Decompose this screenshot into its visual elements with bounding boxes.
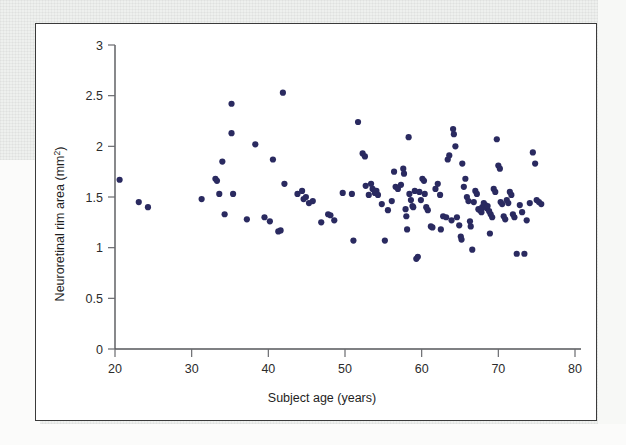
x-tick-label-80: 80 [568, 362, 582, 376]
data-point [408, 197, 414, 203]
data-point [489, 214, 495, 220]
data-point [252, 141, 258, 147]
data-point [492, 189, 498, 195]
data-point [280, 90, 286, 96]
x-axis: 20304050607080 [108, 349, 582, 376]
data-point [446, 152, 452, 158]
data-point [521, 251, 527, 257]
data-point [382, 237, 388, 243]
data-point [469, 247, 475, 253]
data-point [462, 176, 468, 182]
x-tick-label-40: 40 [261, 362, 275, 376]
data-point [222, 211, 228, 217]
figure-frame: 00.511.522.53 20304050607080 Subject age… [35, 23, 597, 421]
scatter-plot: 00.511.522.53 20304050607080 Subject age… [36, 24, 596, 420]
data-point [418, 197, 424, 203]
data-point [454, 214, 460, 220]
data-point [505, 200, 511, 206]
data-point [385, 207, 391, 213]
data-point [270, 156, 276, 162]
page-background-right-panel [598, 0, 626, 445]
data-point [524, 217, 530, 223]
data-point [368, 181, 374, 187]
data-point [281, 181, 287, 187]
data-point [389, 198, 395, 204]
data-point [355, 119, 361, 125]
data-point [494, 136, 500, 142]
data-point [401, 171, 407, 177]
data-point [267, 218, 273, 224]
data-point [425, 207, 431, 213]
data-point [340, 190, 346, 196]
data-point [429, 224, 435, 230]
data-point [461, 184, 467, 190]
data-point [443, 214, 449, 220]
data-point [451, 131, 457, 137]
x-tick-label-30: 30 [185, 362, 199, 376]
data-point [435, 181, 441, 187]
data-point [511, 214, 517, 220]
data-point [244, 216, 250, 222]
data-point [331, 217, 337, 223]
data-point [310, 198, 316, 204]
data-point [458, 236, 464, 242]
data-point [456, 222, 462, 228]
data-points [117, 90, 545, 262]
data-point [532, 160, 538, 166]
data-point [415, 254, 421, 260]
data-point [465, 198, 471, 204]
data-point [406, 191, 412, 197]
data-point [398, 182, 404, 188]
data-point [422, 191, 428, 197]
data-point [527, 200, 533, 206]
data-point [303, 194, 309, 200]
data-point [452, 143, 458, 149]
data-point [438, 226, 444, 232]
data-point [459, 160, 465, 166]
data-point [402, 206, 408, 212]
svg-text:Neuroretinal rim area (mm2): Neuroretinal rim area (mm2) [52, 147, 67, 302]
data-point [474, 191, 480, 197]
data-point [366, 192, 372, 198]
data-point [327, 212, 333, 218]
y-axis: 00.511.522.53 [86, 39, 115, 357]
x-tick-label-20: 20 [108, 362, 122, 376]
page-root: 00.511.522.53 20304050607080 Subject age… [0, 0, 626, 445]
data-point [136, 199, 142, 205]
y-tick-label-1: 1 [96, 241, 103, 255]
x-tick-label-60: 60 [415, 362, 429, 376]
page-background-left-panel [0, 160, 40, 445]
data-point [350, 237, 356, 243]
data-point [421, 178, 427, 184]
y-axis-title-main: Neuroretinal rim area (mm [53, 156, 67, 302]
data-point [502, 216, 508, 222]
data-point [349, 191, 355, 197]
data-point [530, 149, 536, 155]
data-point [519, 209, 525, 215]
y-tick-label-2: 2 [96, 140, 103, 154]
data-point [278, 227, 284, 233]
data-point [517, 202, 523, 208]
data-point [416, 189, 422, 195]
data-point [261, 214, 267, 220]
data-point [214, 178, 220, 184]
data-point [199, 196, 205, 202]
data-point [363, 183, 369, 189]
data-point [471, 199, 477, 205]
x-tick-label-50: 50 [338, 362, 352, 376]
data-point [403, 213, 409, 219]
y-axis-title-tail: ) [53, 147, 67, 151]
y-tick-label-0.5: 0.5 [86, 292, 103, 306]
data-point [448, 217, 454, 223]
data-point [230, 191, 236, 197]
data-point [228, 130, 234, 136]
data-point [362, 153, 368, 159]
data-point [391, 169, 397, 175]
data-point [219, 158, 225, 164]
y-tick-label-3: 3 [96, 39, 103, 53]
page-background-bottom-panel [0, 424, 626, 445]
y-tick-label-2.5: 2.5 [86, 89, 103, 103]
data-point [406, 134, 412, 140]
data-point [497, 166, 503, 172]
y-axis-title: Neuroretinal rim area (mm2) [52, 147, 67, 302]
